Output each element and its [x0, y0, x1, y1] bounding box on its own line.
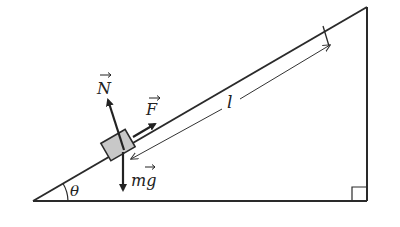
- weight-label: mg: [131, 171, 156, 190]
- applied-force-arrow: [133, 124, 155, 137]
- incline-surface: [33, 7, 367, 201]
- length-dimension: l: [131, 45, 330, 159]
- angle-label: θ: [70, 182, 79, 200]
- inclined-plane-diagram: θ l N F mg: [0, 0, 400, 227]
- weight-vector-arrow: [145, 165, 155, 170]
- right-angle-marker: [352, 187, 367, 201]
- normal-vector-arrow: [100, 73, 111, 78]
- angle-arc: [63, 184, 68, 202]
- applied-force-label: F: [145, 100, 158, 119]
- length-label: l: [227, 92, 232, 112]
- incline-triangle: [33, 7, 367, 201]
- normal-force-label: N: [96, 79, 112, 98]
